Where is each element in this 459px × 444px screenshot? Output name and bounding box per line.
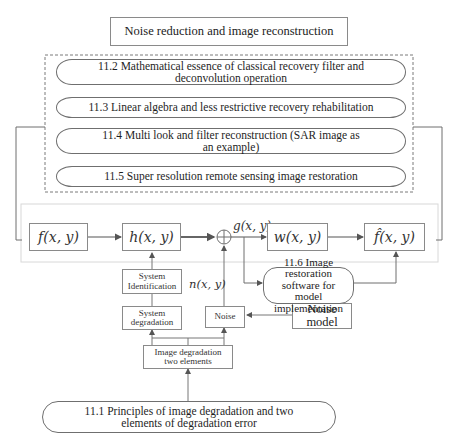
section-11-1[interactable]: 11.1 Principles of image degradation and… (42, 401, 336, 433)
section-11-5-label: 11.5 Super resolution remote sensing ima… (104, 170, 357, 182)
output-image-label: f̂(x, y) (374, 230, 415, 245)
input-image-box: f(x, y) (29, 223, 88, 251)
degradation-function-box: h(x, y) (122, 223, 181, 251)
section-11-4-label: 11.4 Multi look and filter reconstructio… (97, 129, 365, 153)
section-11-6-label: 11.6 Image restoration software for mode… (270, 257, 347, 315)
two-elements-label: Image degradation two elements (147, 348, 229, 367)
title-label: Noise reduction and image reconstruction (125, 25, 334, 38)
restoration-filter-label: w(x, y) (274, 230, 322, 245)
degradation-function-label: h(x, y) (129, 230, 174, 245)
section-11-1-label: 11.1 Principles of image degradation and… (67, 405, 311, 429)
noise-box: Noise (205, 306, 245, 328)
section-11-2-label: 11.2 Mathematical essence of classical r… (87, 60, 375, 84)
restoration-filter-box: w(x, y) (267, 223, 328, 251)
input-image-label: f(x, y) (38, 230, 79, 245)
section-11-2[interactable]: 11.2 Mathematical essence of classical r… (56, 59, 406, 85)
system-identification-box: System Identification (122, 269, 182, 294)
system-degradation-box: System degradation (122, 306, 182, 330)
section-11-4[interactable]: 11.4 Multi look and filter reconstructio… (56, 128, 406, 154)
section-11-6[interactable]: 11.6 Image restoration software for mode… (263, 267, 354, 304)
system-degradation-label: System degradation (127, 309, 177, 328)
section-11-3-label: 11.3 Linear algebra and less restrictive… (88, 101, 373, 113)
title-box: Noise reduction and image reconstruction (110, 17, 348, 46)
noise-label: Noise (215, 312, 236, 321)
two-elements-box: Image degradation two elements (143, 345, 233, 369)
output-image-box: f̂(x, y) (364, 223, 425, 251)
section-11-3[interactable]: 11.3 Linear algebra and less restrictive… (56, 97, 406, 118)
noise-signal-label: n(x, y) (189, 277, 226, 291)
section-11-5[interactable]: 11.5 Super resolution remote sensing ima… (56, 166, 406, 187)
degraded-image-label: g(x, y) (233, 219, 271, 233)
system-identification-label: System Identification (125, 272, 179, 291)
